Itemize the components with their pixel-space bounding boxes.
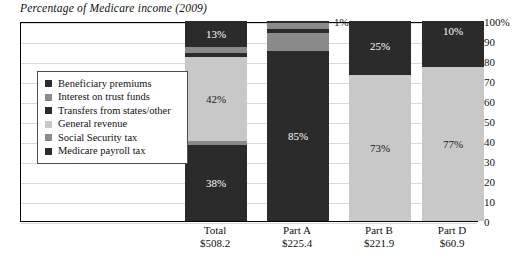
legend-item[interactable]: General revenue (45, 118, 181, 132)
legend-swatch-icon (45, 148, 52, 155)
x-axis-category: Part D$60.9 (421, 224, 483, 250)
bar-segment[interactable] (185, 53, 247, 57)
legend-swatch-icon (45, 134, 52, 141)
x-axis: Total$508.2Part A$225.4Part B$221.9Part … (20, 224, 478, 254)
bar-segment[interactable]: 13% (185, 21, 247, 47)
bar-segment[interactable] (422, 41, 484, 67)
bar-segment[interactable] (267, 33, 329, 51)
y-axis-tick-label: 30 (484, 156, 495, 168)
x-axis-category: Part A$225.4 (266, 224, 328, 250)
plot-area: 38%42%13%85%1%73%25%77%10% Beneficiary p… (20, 22, 478, 222)
y-axis-tick-label: 0 (484, 216, 490, 228)
segment-value-label: 73% (370, 143, 390, 154)
bar-segment[interactable]: 25% (349, 21, 411, 71)
x-axis-category: Part B$221.9 (348, 224, 410, 250)
y-axis-tick-label: 70 (484, 76, 495, 88)
segment-value-label: 13% (206, 29, 226, 40)
segment-value-label: 25% (370, 41, 390, 52)
bar-segment[interactable]: 77% (422, 67, 484, 221)
segment-value-label: 77% (443, 139, 463, 150)
x-axis-category: Total$508.2 (184, 224, 246, 250)
segment-value-label: 42% (206, 94, 226, 105)
bar-column[interactable]: 38%42%13% (185, 21, 247, 221)
bar-segment[interactable]: 73% (349, 75, 411, 221)
bar-segment[interactable] (267, 23, 329, 29)
legend-swatch-icon (45, 94, 52, 101)
segment-value-label: 38% (206, 178, 226, 189)
x-axis-category-value: $225.4 (266, 237, 328, 250)
bar-column[interactable]: 73%25% (349, 21, 411, 221)
x-axis-category-name: Part D (421, 224, 483, 237)
legend-swatch-icon (45, 121, 52, 128)
bar-stack: 85%1% (267, 21, 329, 221)
legend-item[interactable]: Medicare payroll tax (45, 145, 181, 159)
segment-value-label: 1% (334, 17, 349, 28)
x-axis-category-name: Total (184, 224, 246, 237)
bar-column[interactable]: 85%1% (267, 21, 329, 221)
bar-stack: 38%42%13% (185, 21, 247, 221)
bar-segment[interactable]: 1% (267, 21, 329, 23)
legend-item[interactable]: Transfers from states/other (45, 104, 181, 118)
segment-value-label: 85% (288, 131, 308, 142)
legend-item-label: Medicare payroll tax (58, 146, 145, 157)
chart-title: Percentage of Medicare income (2009) (20, 2, 207, 14)
legend-item[interactable]: Interest on trust funds (45, 91, 181, 105)
legend-item[interactable]: Beneficiary premiums (45, 77, 181, 91)
y-axis-tick-label: 90 (484, 36, 495, 48)
bar-stack: 73%25% (349, 21, 411, 221)
legend-item-label: Beneficiary premiums (58, 79, 152, 90)
legend-item-label: Interest on trust funds (58, 92, 150, 103)
bar-segment[interactable]: 10% (422, 21, 484, 41)
legend-swatch-icon (45, 80, 52, 87)
chart-legend: Beneficiary premiumsInterest on trust fu… (37, 71, 188, 164)
segment-value-label: 10% (443, 26, 463, 37)
legend-item-label: Transfers from states/other (58, 106, 171, 117)
x-axis-category-value: $60.9 (421, 237, 483, 250)
legend-item-label: General revenue (58, 119, 127, 130)
x-axis-category-value: $221.9 (348, 237, 410, 250)
bar-segment[interactable]: 85% (267, 51, 329, 221)
x-axis-category-name: Part A (266, 224, 328, 237)
x-axis-category-name: Part B (348, 224, 410, 237)
bar-segment[interactable] (349, 71, 411, 75)
bar-segment[interactable]: 38% (185, 145, 247, 221)
legend-item-label: Social Security tax (58, 133, 137, 144)
bar-segment[interactable] (185, 47, 247, 53)
bar-column[interactable]: 77%10% (422, 21, 484, 221)
y-axis: 100%9080706050403020100 (484, 22, 528, 222)
legend-item[interactable]: Social Security tax (45, 131, 181, 145)
y-axis-tick-label: 40 (484, 136, 495, 148)
y-axis-tick-label: 60 (484, 96, 495, 108)
x-axis-category-value: $508.2 (184, 237, 246, 250)
y-axis-tick-label: 100% (484, 16, 510, 28)
bar-stack: 77%10% (422, 21, 484, 221)
y-axis-tick-label: 80 (484, 56, 495, 68)
bar-segment[interactable]: 42% (185, 57, 247, 141)
y-axis-tick-label: 20 (484, 176, 495, 188)
y-axis-tick-label: 10 (484, 196, 495, 208)
bar-segment[interactable] (185, 141, 247, 145)
legend-swatch-icon (45, 107, 52, 114)
y-axis-tick-label: 50 (484, 116, 495, 128)
chart-root: Percentage of Medicare income (2009) 38%… (0, 0, 529, 254)
bar-segment[interactable] (267, 29, 329, 33)
